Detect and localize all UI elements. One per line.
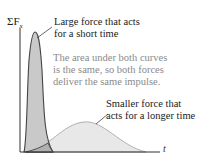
leader-line-large [37,27,52,38]
small-force-annotation: Smaller force that acts for a longer tim… [106,98,195,122]
large-force-curve [24,32,53,152]
impulse-diagram: ΣFx t Large force that acts for a short … [0,0,215,159]
x-axis-label: t [163,143,166,154]
large-force-annotation: Large force that acts for a short time [54,16,140,40]
y-axis-label: ΣFx [7,15,23,30]
equal-area-note: The area under both curves is the same, … [53,52,167,88]
